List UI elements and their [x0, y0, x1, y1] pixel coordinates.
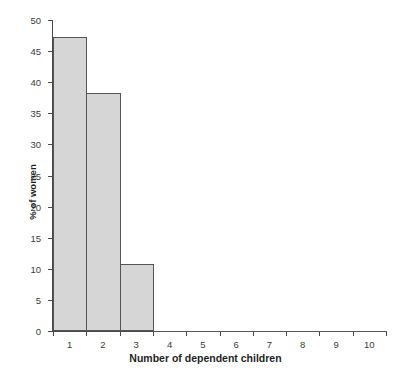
bar: [353, 331, 387, 332]
y-tick-label: 35: [30, 108, 41, 119]
x-tick-label: 7: [267, 339, 272, 350]
bar: [86, 93, 120, 331]
y-tick: 45: [48, 51, 52, 52]
x-tick-label: 3: [134, 339, 139, 350]
plot-area: 05101520253035404550 12345678910: [53, 20, 386, 331]
bar: [120, 264, 154, 331]
y-tick: 20: [48, 207, 52, 208]
x-tick-label: 5: [200, 339, 205, 350]
bar: [153, 331, 187, 332]
x-tick: [53, 331, 54, 336]
y-tick: 0: [48, 331, 52, 332]
y-tick: 35: [48, 113, 52, 114]
x-axis-title: Number of dependent children: [0, 352, 411, 364]
y-tick-label: 20: [30, 201, 41, 212]
bar: [286, 331, 320, 332]
bar: [186, 331, 220, 332]
y-tick-label: 10: [30, 263, 41, 274]
y-tick: 10: [48, 269, 52, 270]
bar: [253, 331, 287, 332]
y-tick: 30: [48, 144, 52, 145]
bar: [319, 331, 353, 332]
bar: [53, 37, 87, 331]
y-tick-label: 30: [30, 139, 41, 150]
x-tick-label: 10: [364, 339, 375, 350]
x-tick-label: 4: [167, 339, 172, 350]
x-tick-label: 2: [100, 339, 105, 350]
x-tick-label: 8: [300, 339, 305, 350]
y-tick: 40: [48, 82, 52, 83]
y-tick-label: 15: [30, 232, 41, 243]
y-tick-label: 25: [30, 170, 41, 181]
y-tick: 50: [48, 20, 52, 21]
y-tick: 5: [48, 300, 52, 301]
histogram-chart: % of women Number of dependent children …: [0, 0, 411, 383]
bar: [220, 331, 254, 332]
x-tick-label: 9: [333, 339, 338, 350]
y-tick-label: 45: [30, 46, 41, 57]
x-tick: [86, 331, 87, 336]
y-tick: 25: [48, 176, 52, 177]
y-tick-label: 40: [30, 77, 41, 88]
y-tick: 15: [48, 238, 52, 239]
y-tick-label: 0: [36, 326, 41, 337]
y-tick-label: 5: [36, 294, 41, 305]
x-tick-label: 1: [67, 339, 72, 350]
x-tick: [120, 331, 121, 336]
x-tick-label: 6: [233, 339, 238, 350]
y-tick-label: 50: [30, 15, 41, 26]
